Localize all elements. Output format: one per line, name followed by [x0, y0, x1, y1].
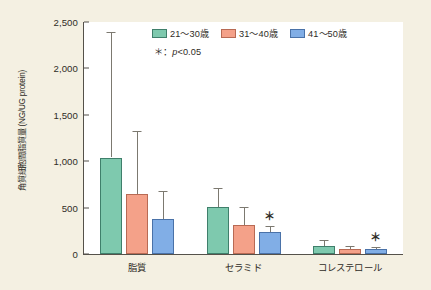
y-axis-tick-label: 2,000: [53, 63, 84, 74]
y-axis-tick-mark: [84, 68, 89, 69]
error-bar: [163, 191, 164, 219]
error-bar-cap: [319, 240, 328, 241]
legend-label-41-50: 41～50歳: [308, 26, 347, 40]
error-bar-cap: [239, 207, 248, 208]
y-axis-title: 角質細胞間脂質量 (NG/UG protein): [16, 3, 30, 258]
y-axis-tick-label: 0: [73, 249, 84, 260]
y-axis-tick-mark: [84, 22, 89, 23]
error-bar: [244, 207, 245, 226]
x-axis-category-label: コレステロール: [318, 260, 382, 274]
error-bar-cap: [133, 131, 142, 132]
significance-asterisk: ＊: [370, 232, 381, 243]
legend-swatch-salmon: [221, 29, 236, 38]
chart-legend: 21～30歳 31～40歳 41～50歳 ＊：p<0.05: [152, 26, 347, 58]
bar: [233, 225, 255, 254]
legend-label-21-30: 21～30歳: [170, 26, 209, 40]
legend-swatch-blue: [290, 29, 305, 38]
legend-entries: 21～30歳 31～40歳 41～50歳: [152, 26, 347, 40]
y-axis-tick-label: 1,500: [53, 109, 84, 120]
y-axis-tick-mark: [84, 254, 89, 255]
legend-item-41-50: 41～50歳: [290, 26, 347, 40]
legend-swatch-green: [152, 29, 167, 38]
legend-label-31-40: 31～40歳: [239, 26, 278, 40]
legend-item-31-40: 31～40歳: [221, 26, 278, 40]
error-bar-cap: [107, 32, 116, 33]
y-axis-tick-mark: [84, 207, 89, 208]
x-axis-category-label: セラミド: [225, 260, 262, 274]
bar-chart-figure: 角質細胞間脂質量 (NG/UG protein) 05001,0001,5002…: [0, 0, 431, 290]
legend-item-21-30: 21～30歳: [152, 26, 209, 40]
bar: [100, 158, 122, 255]
bar: [313, 246, 335, 254]
y-axis-tick-mark: [84, 114, 89, 115]
bar: [259, 232, 281, 254]
significance-note-suffix: <0.05: [177, 47, 201, 57]
error-bar: [111, 32, 112, 157]
y-axis-tick-label: 500: [62, 202, 84, 213]
error-bar-cap: [213, 188, 222, 189]
significance-note-prefix: ＊：: [154, 47, 172, 57]
bar: [126, 194, 148, 254]
bar: [152, 219, 174, 254]
significance-note: ＊：p<0.05: [154, 44, 347, 58]
y-axis-tick-mark: [84, 161, 89, 162]
bar: [365, 249, 387, 254]
error-bar-cap: [265, 226, 274, 227]
error-bar-cap: [371, 247, 380, 248]
error-bar: [137, 131, 138, 194]
x-axis-category-label: 脂質: [128, 260, 146, 274]
y-axis-tick-label: 2,500: [53, 17, 84, 28]
error-bar: [218, 188, 219, 207]
bar: [339, 249, 361, 254]
error-bar-cap: [159, 191, 168, 192]
error-bar-cap: [345, 246, 354, 247]
y-axis-tick-label: 1,000: [53, 156, 84, 167]
significance-asterisk: ＊: [264, 211, 275, 222]
bar: [207, 207, 229, 254]
